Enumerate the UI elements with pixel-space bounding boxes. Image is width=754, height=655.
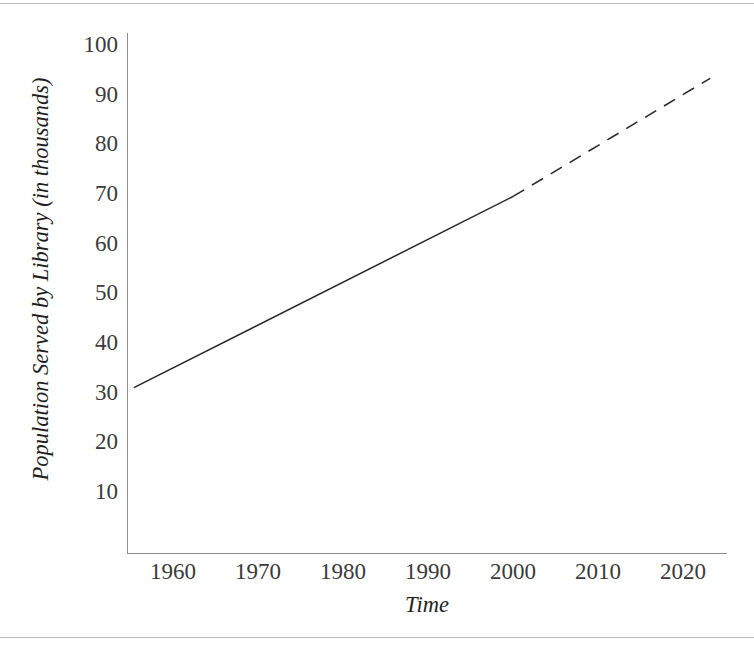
line-chart-figure: 102030405060708090100 196019701980199020… bbox=[0, 0, 754, 655]
y-tick-label-90: 90 bbox=[95, 83, 118, 106]
series-line-projected bbox=[513, 78, 710, 196]
x-tick-label-1990: 1990 bbox=[405, 560, 451, 583]
y-tick-label-50: 50 bbox=[95, 281, 118, 304]
x-tick-label-2000: 2000 bbox=[490, 560, 536, 583]
x-axis-line bbox=[127, 553, 727, 554]
y-axis-title: Population Served by Library (in thousan… bbox=[24, 19, 58, 539]
y-tick-label-10: 10 bbox=[95, 480, 118, 503]
y-tick-label-30: 30 bbox=[95, 381, 118, 404]
x-tick-label-1980: 1980 bbox=[320, 560, 366, 583]
x-tick-label-2020: 2020 bbox=[660, 560, 706, 583]
y-tick-label-100: 100 bbox=[84, 33, 119, 56]
page-rule-bottom bbox=[0, 637, 754, 638]
y-tick-label-40: 40 bbox=[95, 331, 118, 354]
y-tick-label-70: 70 bbox=[95, 182, 118, 205]
x-tick-label-1960: 1960 bbox=[150, 560, 196, 583]
x-tick-label-2010: 2010 bbox=[575, 560, 621, 583]
x-tick-label-1970: 1970 bbox=[235, 560, 281, 583]
series-line-observed bbox=[134, 196, 513, 387]
x-axis-title: Time bbox=[127, 592, 727, 618]
y-tick-label-60: 60 bbox=[95, 232, 118, 255]
y-axis-line bbox=[127, 33, 128, 554]
y-tick-label-20: 20 bbox=[95, 430, 118, 453]
y-tick-label-80: 80 bbox=[95, 132, 118, 155]
